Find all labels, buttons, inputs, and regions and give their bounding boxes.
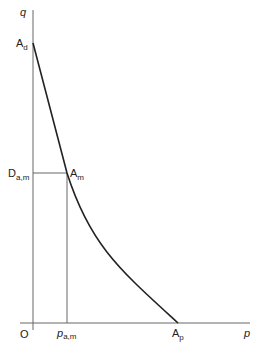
origin-label: O [20,328,29,340]
p-axis-label: p [243,327,250,339]
p-am-label: pa,m [56,327,77,341]
a-m-label: Am [70,167,84,182]
q-axis-label: q [20,6,27,18]
a-d-label: Ad [16,37,28,52]
demand-curve [33,43,178,323]
a-p-label: Ap [172,327,184,342]
d-am-label: Da,m [8,167,30,182]
demand-curve-diagram: q p O Ad Am Da,m pa,m Ap [0,0,261,345]
